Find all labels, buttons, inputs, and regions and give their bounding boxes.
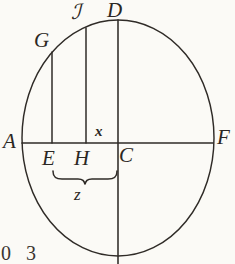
brace-under-segment-z bbox=[53, 171, 117, 184]
segment-label-x: x bbox=[95, 124, 103, 139]
figure-caption-fragment: 0 3 bbox=[1, 243, 41, 263]
point-label-a: A bbox=[3, 131, 16, 152]
point-label-j: ℐ bbox=[71, 2, 81, 23]
point-label-e: E bbox=[42, 148, 55, 169]
point-label-h: H bbox=[74, 148, 89, 169]
figure-page: ℐ D G A E H C F x z 0 3 bbox=[0, 0, 235, 264]
point-label-c: C bbox=[119, 145, 133, 166]
point-label-d: D bbox=[107, 0, 122, 21]
point-label-f: F bbox=[217, 127, 230, 148]
point-label-g: G bbox=[34, 30, 49, 51]
segment-label-z: z bbox=[74, 186, 81, 203]
